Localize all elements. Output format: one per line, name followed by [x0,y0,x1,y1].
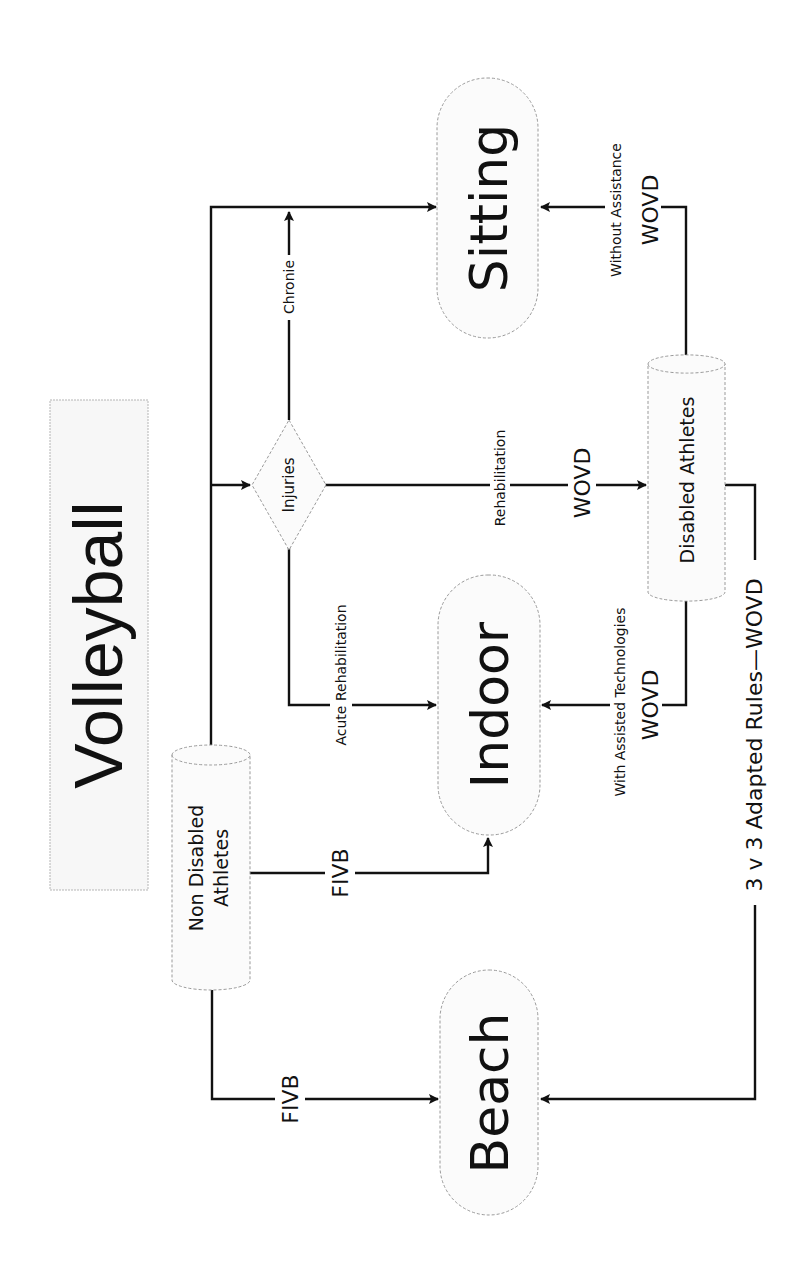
edge-label-3v3-wovd: WOVD [742,578,767,649]
edge-injuries-to-indoor [289,548,436,705]
node-injuries-label: Injuries [280,457,298,512]
volleyball-flow-diagram: Volleyball FIVB FIVB Acute Rehabilitatio… [0,0,808,1272]
title-box: Volleyball [50,400,148,890]
edge-label-wovd-sitting: WOVD [638,175,663,246]
node-beach-label: Beach [460,1012,520,1173]
node-sitting-label: Sitting [459,124,519,293]
edge-label-fivb-indoor: FIVB [328,848,353,897]
edge-label-wovd-indoor: WOVD [638,670,663,741]
edge-label-3v3-rules: 3 v 3 Adapted Rules [742,671,767,892]
node-disabled-athletes[interactable]: Disabled Athletes [648,355,725,601]
edge-label-acute-rehabilitation: Acute Rehabilitation [333,604,349,745]
node-indoor[interactable]: Indoor [438,575,540,835]
edge-label-fivb-beach: FIVB [278,1074,303,1123]
edge-non-disabled-to-sitting [211,207,436,745]
diagram-title: Volleyball [60,501,136,788]
node-sitting[interactable]: Sitting [437,78,538,338]
edge-label-rehabilitation: Rehabilitation [492,430,508,527]
node-injuries[interactable]: Injuries [252,420,326,550]
edge-label-without-assistance: Without Assistance [608,143,624,277]
node-non-disabled-line1: Non Disabled [185,805,207,931]
edge-non-disabled-to-indoor [250,838,488,873]
node-non-disabled-line2: Athletes [210,829,232,907]
svg-text:3 v 3 Adapted Rules—WOVD: 3 v 3 Adapted Rules—WOVD [742,578,767,891]
edge-label-wovd-rehabilitation: WOVD [570,448,595,519]
edge-label-3v3: 3 v 3 Adapted Rules—WOVD [742,578,767,891]
edge-label-chronic: Chronie [281,260,297,314]
node-beach[interactable]: Beach [440,970,538,1215]
node-disabled-label: Disabled Athletes [676,397,698,564]
edge-non-disabled-to-beach [212,990,438,1099]
node-non-disabled-athletes[interactable]: Non Disabled Athletes [172,745,250,990]
edge-label-with-assisted-technologies: With Assisted Technologies [612,608,628,797]
node-indoor-label: Indoor [460,621,520,788]
